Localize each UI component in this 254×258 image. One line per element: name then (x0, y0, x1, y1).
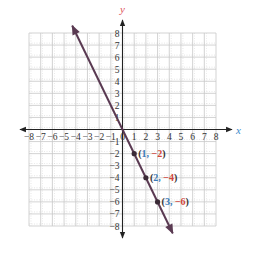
x-tick-label: 8 (214, 132, 219, 142)
x-axis-label: x (235, 124, 241, 136)
y-tick-label: 2 (115, 101, 120, 111)
x-tick-label: 6 (190, 132, 195, 142)
x-tick-label: −6 (47, 132, 57, 142)
y-tick-label: −5 (109, 185, 119, 195)
y-tick-label: 8 (115, 29, 120, 39)
x-tick-label: −7 (36, 132, 46, 142)
data-points: (1, −2)(2, −4)(3, −6) (132, 148, 189, 208)
y-tick-label: −6 (109, 197, 119, 207)
x-tick-label: 7 (202, 132, 207, 142)
y-tick-label: 7 (115, 41, 120, 51)
x-tick-label: −3 (82, 132, 92, 142)
plot-area: −8−7−6−5−4−3−2−1012345678−8−7−6−5−4−3−2−… (0, 0, 254, 258)
x-tick-label: 2 (144, 132, 149, 142)
x-tick-label: −5 (59, 132, 69, 142)
x-tick-label: −8 (24, 132, 34, 142)
data-point (155, 199, 160, 204)
y-tick-label: −4 (109, 173, 119, 183)
y-tick-label: 3 (115, 89, 120, 99)
y-tick-label: −3 (109, 161, 119, 171)
axes (20, 20, 232, 238)
x-tick-label: −2 (94, 132, 104, 142)
x-tick-label: 1 (132, 132, 137, 142)
x-tick-label: −4 (71, 132, 81, 142)
data-point (132, 151, 137, 156)
y-tick-label: −8 (109, 222, 119, 232)
point-coordinate-label: (1, −2) (138, 148, 165, 160)
coordinate-plane-chart: −8−7−6−5−4−3−2−1012345678−8−7−6−5−4−3−2−… (0, 0, 254, 258)
x-tick-label: 5 (179, 132, 184, 142)
y-tick-label: 4 (115, 77, 120, 87)
y-tick-label: −2 (109, 149, 119, 159)
y-tick-label: 5 (115, 65, 120, 75)
point-coordinate-label: (3, −6) (162, 196, 189, 208)
y-tick-label: 6 (115, 53, 120, 63)
y-tick-label: −7 (109, 209, 119, 219)
data-point (143, 175, 148, 180)
x-tick-label: 3 (155, 132, 160, 142)
point-coordinate-label: (2, −4) (150, 172, 177, 184)
y-axis-label: y (119, 3, 125, 15)
y-tick-label: −1 (109, 137, 119, 147)
x-tick-label: 4 (167, 132, 172, 142)
